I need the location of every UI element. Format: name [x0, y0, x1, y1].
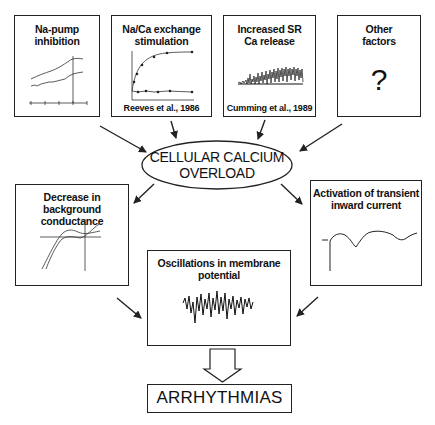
cause-box-na-ca-exchange: Na/Ca exchange stimulation Reeves et al.… [111, 15, 212, 117]
cause-box-na-pump: Na-pump inhibition [14, 15, 100, 117]
iv-curve-plot [16, 185, 130, 287]
arrow-sr-to-overload [258, 120, 265, 139]
cause-title: Other factors [338, 23, 420, 47]
effect-box-background-conductance: Decrease in background conductance [15, 184, 129, 286]
arrow-naca-to-overload [171, 121, 176, 138]
title-line1: Other [338, 23, 420, 35]
oscillation-trace [148, 251, 292, 347]
citation: Reeves et al., 1986 [112, 103, 211, 113]
center-node-line2: OVERLOAD [142, 165, 292, 181]
outcome-label: ARRHYTHMIAS [148, 388, 291, 408]
inward-current-trace [311, 181, 423, 287]
cause-box-other-factors: Other factors ? [337, 15, 421, 117]
title-line2: factors [338, 35, 420, 47]
arrow-inward-current-to-oscillations [297, 297, 318, 316]
na-pump-plot [15, 16, 101, 118]
cause-box-sr-ca-release: Increased SR Ca release Cumming et al., … [223, 15, 316, 117]
outcome-box-arrhythmias: ARRHYTHMIAS [147, 384, 292, 413]
arrow-other-to-overload [300, 124, 342, 151]
effect-box-transient-inward-current: Activation of transient inward current [310, 180, 422, 286]
question-mark-icon: ? [338, 63, 420, 97]
effect-box-membrane-oscillations: Oscillations in membrane potential [147, 250, 291, 346]
center-node-label: CELLULAR CALCIUM OVERLOAD [142, 149, 292, 181]
citation: Cumming et al., 1989 [224, 103, 315, 113]
arrow-overload-to-conductance [134, 184, 154, 203]
arrow-overload-to-inward-current [281, 184, 302, 204]
arrow-napump-to-overload [100, 126, 146, 152]
arrow-conductance-to-oscillations [117, 298, 141, 318]
center-node-line1: CELLULAR CALCIUM [142, 149, 292, 165]
hollow-down-arrow [204, 349, 241, 382]
